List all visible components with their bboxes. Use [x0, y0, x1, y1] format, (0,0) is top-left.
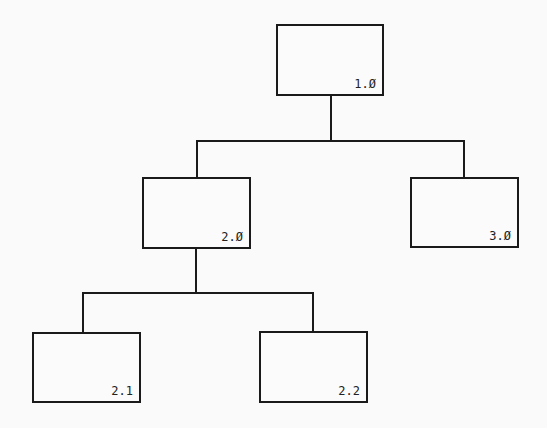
node-2-0: 2.Ø	[142, 177, 251, 249]
connector-2-0-down	[195, 248, 197, 294]
connector-to-2-1	[82, 292, 84, 333]
connector-level3-horizontal	[82, 292, 314, 294]
node-2-2: 2.2	[259, 331, 368, 403]
node-3-0: 3.Ø	[410, 177, 519, 248]
connector-to-3-0	[463, 140, 465, 178]
node-label: 2.1	[111, 384, 133, 398]
connector-1-0-down	[330, 95, 332, 142]
node-label: 2.Ø	[221, 230, 243, 244]
node-label: 1.Ø	[354, 77, 376, 91]
node-label: 3.Ø	[489, 229, 511, 243]
connector-to-2-0	[196, 140, 198, 178]
node-1-0: 1.Ø	[276, 24, 384, 96]
node-label: 2.2	[338, 384, 360, 398]
node-2-1: 2.1	[32, 332, 141, 403]
connector-level2-horizontal	[196, 140, 465, 142]
connector-to-2-2	[312, 292, 314, 332]
